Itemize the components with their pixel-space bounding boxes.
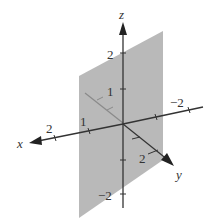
y-axis-label: y — [174, 167, 182, 182]
y-tick-label-2: 2 — [139, 151, 146, 166]
z-arrow-icon — [119, 22, 127, 35]
z-tick-label-neg2: −2 — [98, 188, 112, 203]
coordinate-diagram: z x y 2 1 −2 1 2 2 −2 — [0, 0, 217, 218]
x-tick-label-2: 2 — [46, 121, 53, 136]
y-tick-label-neg2: −2 — [170, 95, 184, 110]
z-tick-label-2: 2 — [107, 47, 114, 62]
z-tick-label-1: 1 — [107, 84, 114, 99]
x-axis-label: x — [16, 136, 23, 151]
z-axis-label: z — [118, 7, 124, 22]
x-arrow-icon — [29, 136, 42, 145]
x-tick-label-1: 1 — [80, 114, 87, 129]
